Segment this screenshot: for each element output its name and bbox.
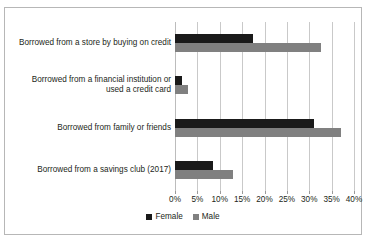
cropped-text-artifact [5,0,15,5]
x-tick-label-25%: 25% [279,195,295,204]
bar-female-3[interactable] [175,161,213,170]
bar-male-2[interactable] [175,128,341,137]
legend-item-male[interactable]: Male [193,212,220,221]
bar-group [175,34,354,52]
category-label-1: Borrowed from a financial institution or… [9,75,171,95]
gridline-40% [354,22,355,191]
bar-male-3[interactable] [175,170,233,179]
category-label-3: Borrowed from a savings club (2017) [9,165,171,175]
category-label-line: Borrowed from a savings club (2017) [9,165,171,175]
bar-female-0[interactable] [175,34,253,43]
x-tick-label-20%: 20% [256,195,272,204]
category-label-line: Borrowed from a financial institution or [9,75,171,85]
x-tick-label-30%: 30% [301,195,317,204]
legend-swatch-female-icon [146,214,152,220]
x-tick-15% [242,191,243,194]
x-tick-label-10%: 10% [212,195,228,204]
legend-label-male: Male [202,212,220,221]
x-axis: 0%5%10%15%20%25%30%35%40% [175,191,354,211]
x-tick-5% [197,191,198,194]
x-tick-20% [265,191,266,194]
legend-swatch-male-icon [193,214,199,220]
x-tick-30% [309,191,310,194]
bar-group [175,119,354,137]
bar-rows [175,22,354,191]
bar-group [175,161,354,179]
bar-female-2[interactable] [175,119,314,128]
x-tick-35% [332,191,333,194]
bar-male-0[interactable] [175,43,321,52]
x-tick-label-5%: 5% [191,195,203,204]
x-tick-label-15%: 15% [234,195,250,204]
legend-item-female[interactable]: Female [146,212,182,221]
x-tick-label-35%: 35% [323,195,339,204]
category-label-2: Borrowed from family or friends [9,123,171,133]
category-label-line: Borrowed from a store by buying on credi… [9,38,171,48]
legend-label-female: Female [155,212,182,221]
x-tick-10% [220,191,221,194]
bar-female-1[interactable] [175,76,182,85]
x-tick-40% [354,191,355,194]
bar-group [175,76,354,94]
bar-male-1[interactable] [175,85,188,94]
category-axis-labels: Borrowed from a store by buying on credi… [9,22,171,191]
x-tick-label-40%: 40% [346,195,362,204]
chart-container: Borrowed from a store by buying on credi… [4,7,362,235]
category-label-line: Borrowed from family or friends [9,123,171,133]
x-tick-25% [287,191,288,194]
plot-area [175,22,354,191]
x-tick-label-0%: 0% [169,195,181,204]
x-tick-0% [175,191,176,194]
category-label-line: used a credit card [9,85,171,95]
chart-legend: Female Male [5,212,361,221]
category-label-0: Borrowed from a store by buying on credi… [9,38,171,48]
